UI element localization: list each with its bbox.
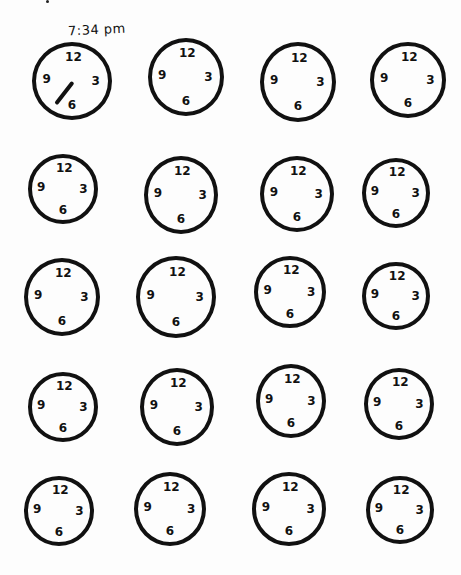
numeral-3: 3 (316, 76, 324, 88)
numeral-3: 3 (75, 505, 83, 517)
clock-face: 12369 (260, 156, 334, 232)
numeral-12: 12 (174, 165, 191, 177)
numeral-3: 3 (426, 74, 434, 86)
clock-face: 12369 (362, 158, 430, 228)
numeral-3: 3 (416, 504, 424, 516)
numeral-6: 6 (182, 95, 190, 107)
numeral-12: 12 (56, 380, 73, 392)
clock-face: 12369 (28, 372, 98, 442)
numeral-12: 12 (170, 377, 187, 389)
numeral-9: 9 (371, 185, 379, 197)
numeral-9: 9 (262, 501, 270, 513)
numeral-9: 9 (143, 501, 151, 513)
clock-face: 12369 (32, 42, 112, 120)
numeral-3: 3 (187, 503, 195, 515)
numeral-12: 12 (282, 481, 299, 493)
numeral-6: 6 (55, 526, 63, 538)
numeral-3: 3 (195, 401, 203, 413)
numeral-6: 6 (177, 213, 185, 225)
numeral-6: 6 (286, 308, 294, 320)
clock-face: 12369 (136, 256, 216, 338)
numeral-9: 9 (371, 288, 379, 300)
clock-face: 12369 (254, 256, 326, 328)
numeral-12: 12 (291, 52, 308, 64)
clock-face: 12369 (252, 472, 326, 546)
numeral-9: 9 (265, 393, 273, 405)
clock-worksheet: 7:34 pm 12369123691236912369123691236912… (0, 0, 461, 575)
numeral-3: 3 (412, 187, 420, 199)
numeral-9: 9 (380, 72, 388, 84)
numeral-12: 12 (163, 481, 180, 493)
numeral-9: 9 (34, 289, 42, 301)
clock-face: 12369 (260, 42, 336, 122)
numeral-12: 12 (290, 165, 307, 177)
numeral-12: 12 (283, 264, 300, 276)
numeral-3: 3 (79, 183, 87, 195)
numeral-12: 12 (65, 51, 82, 63)
numeral-6: 6 (166, 525, 174, 537)
numeral-6: 6 (395, 420, 403, 432)
clock-face: 12369 (256, 364, 326, 438)
numeral-6: 6 (293, 211, 301, 223)
ink-speck (46, 0, 49, 3)
numeral-6: 6 (285, 525, 293, 537)
numeral-6: 6 (287, 417, 295, 429)
numeral-6: 6 (173, 425, 181, 437)
numeral-3: 3 (199, 189, 207, 201)
numeral-9: 9 (158, 69, 166, 81)
numeral-6: 6 (392, 208, 400, 220)
numeral-12: 12 (56, 162, 73, 174)
numeral-3: 3 (80, 291, 88, 303)
clock-face: 12369 (24, 476, 94, 546)
numeral-3: 3 (307, 395, 315, 407)
numeral-12: 12 (179, 47, 196, 59)
numeral-9: 9 (263, 284, 271, 296)
time-label: 7:34 pm (68, 20, 126, 38)
clock-face: 12369 (24, 258, 100, 336)
clock-face: 12369 (362, 262, 430, 330)
numeral-3: 3 (307, 286, 315, 298)
numeral-3: 3 (307, 503, 315, 515)
numeral-6: 6 (59, 204, 67, 216)
numeral-12: 12 (393, 484, 410, 496)
clock-face: 12369 (140, 368, 214, 446)
clock-face: 12369 (134, 472, 206, 546)
numeral-3: 3 (204, 71, 212, 83)
numeral-9: 9 (373, 396, 381, 408)
clock-face: 12369 (148, 38, 224, 116)
numeral-9: 9 (150, 399, 158, 411)
numeral-12: 12 (392, 376, 409, 388)
numeral-12: 12 (52, 484, 69, 496)
numeral-3: 3 (79, 401, 87, 413)
numeral-3: 3 (412, 290, 420, 302)
numeral-12: 12 (389, 270, 406, 282)
numeral-9: 9 (43, 73, 51, 85)
numeral-9: 9 (37, 399, 45, 411)
numeral-6: 6 (58, 315, 66, 327)
numeral-6: 6 (59, 422, 67, 434)
numeral-12: 12 (55, 267, 72, 279)
numeral-9: 9 (147, 289, 155, 301)
numeral-6: 6 (392, 310, 400, 322)
numeral-9: 9 (33, 503, 41, 515)
clock-face: 12369 (364, 368, 434, 440)
numeral-6: 6 (404, 97, 412, 109)
numeral-9: 9 (154, 187, 162, 199)
clock-face: 12369 (366, 476, 434, 544)
numeral-9: 9 (375, 502, 383, 514)
numeral-6: 6 (68, 99, 76, 111)
numeral-6: 6 (396, 524, 404, 536)
numeral-9: 9 (37, 181, 45, 193)
clock-face: 12369 (370, 42, 446, 118)
numeral-12: 12 (389, 166, 406, 178)
clock-face: 12369 (28, 154, 98, 224)
numeral-3: 3 (92, 75, 100, 87)
numeral-6: 6 (172, 316, 180, 328)
clock-face: 12369 (144, 156, 218, 234)
numeral-3: 3 (196, 291, 204, 303)
numeral-12: 12 (284, 373, 301, 385)
numeral-6: 6 (294, 100, 302, 112)
numeral-9: 9 (270, 186, 278, 198)
numeral-12: 12 (401, 51, 418, 63)
numeral-9: 9 (270, 74, 278, 86)
